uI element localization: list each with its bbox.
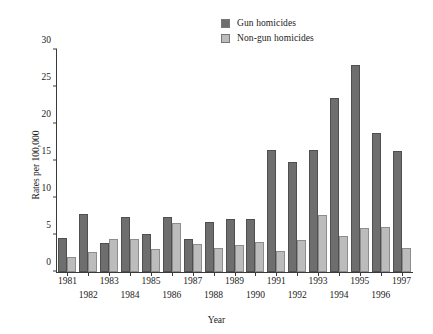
y-axis-title: Rates per 100,000: [31, 131, 41, 200]
bar-1989-non-gun: [235, 245, 244, 272]
bar-1993-non-gun: [318, 215, 327, 272]
bar-1995-non-gun: [360, 228, 369, 272]
x-tick-label-1983: 1983: [100, 276, 119, 286]
bar-group-1988: [205, 222, 223, 272]
bar-1983-non-gun: [109, 239, 118, 272]
bar-group-1997: [393, 151, 411, 272]
bar-group-1982: [79, 214, 97, 272]
bar-1985-gun: [142, 234, 151, 272]
bar-1982-non-gun: [88, 252, 97, 272]
bar-group-1992: [288, 162, 306, 272]
legend-item-non-gun-homicides: Non-gun homicides: [221, 32, 314, 44]
y-tick-label-10: 10: [42, 183, 58, 193]
legend-swatch-non-gun-homicides: [221, 34, 230, 43]
x-tick-mark-1988: [214, 272, 215, 276]
bar-group-1993: [309, 150, 327, 272]
x-tick-label-1989: 1989: [225, 276, 244, 286]
y-tick-label-25: 25: [42, 72, 58, 82]
plot-area: 051015202530: [57, 50, 412, 272]
bar-1987-non-gun: [193, 244, 202, 272]
bar-group-1986: [163, 217, 181, 272]
bar-group-1995: [351, 65, 369, 272]
y-tick-mark-30: [53, 49, 57, 50]
bar-1993-gun: [309, 150, 318, 272]
x-tick-label-1993: 1993: [309, 276, 328, 286]
bar-1994-non-gun: [339, 236, 348, 272]
bar-1986-non-gun: [172, 223, 181, 272]
bar-1986-gun: [163, 217, 172, 272]
x-tick-label-1987: 1987: [183, 276, 202, 286]
legend-label-non-gun-homicides: Non-gun homicides: [237, 33, 314, 43]
bar-1997-non-gun: [402, 248, 411, 272]
bar-1990-non-gun: [255, 242, 264, 272]
x-tick-mark-1986: [172, 272, 173, 276]
legend-label-gun-homicides: Gun homicides: [237, 18, 296, 28]
x-tick-mark-1992: [297, 272, 298, 276]
bar-1991-gun: [267, 150, 276, 272]
bar-group-1984: [121, 217, 139, 272]
chart-legend: Gun homicides Non-gun homicides: [221, 17, 314, 44]
y-tick-mark-20: [53, 123, 57, 124]
y-tick-mark-5: [53, 234, 57, 235]
y-axis-title-wrap: Rates per 100,000: [0, 105, 20, 225]
x-tick-mark-1996: [381, 272, 382, 276]
x-tick-label-1991: 1991: [267, 276, 286, 286]
y-tick-label-15: 15: [42, 146, 58, 156]
x-axis-title: Year: [0, 315, 433, 325]
y-tick-label-0: 0: [46, 257, 57, 267]
bar-1992-gun: [288, 162, 297, 272]
x-tick-label-1996: 1996: [371, 290, 390, 300]
bar-group-1990: [246, 219, 264, 272]
bar-chart: Gun homicides Non-gun homicides Rates pe…: [0, 0, 433, 334]
bar-1984-gun: [121, 217, 130, 272]
x-tick-label-1994: 1994: [329, 290, 348, 300]
bar-1996-gun: [372, 133, 381, 272]
legend-swatch-gun-homicides: [221, 19, 230, 28]
x-tick-label-1995: 1995: [350, 276, 369, 286]
x-tick-label-1981: 1981: [58, 276, 77, 286]
bar-group-1981: [58, 238, 76, 272]
bar-group-1994: [330, 98, 348, 272]
x-tick-mark-1982: [88, 272, 89, 276]
x-tick-label-1997: 1997: [392, 276, 411, 286]
bar-1982-gun: [79, 214, 88, 272]
bar-1981-non-gun: [67, 257, 76, 272]
bar-1987-gun: [184, 239, 193, 272]
bar-1988-non-gun: [214, 248, 223, 272]
bar-1989-gun: [226, 219, 235, 272]
bar-group-1989: [226, 219, 244, 272]
bar-group-1985: [142, 234, 160, 272]
x-tick-label-1990: 1990: [246, 290, 265, 300]
x-tick-mark-1990: [255, 272, 256, 276]
y-tick-mark-25: [53, 86, 57, 87]
bar-1992-non-gun: [297, 240, 306, 272]
y-tick-label-30: 30: [42, 35, 58, 45]
bar-1983-gun: [100, 243, 109, 272]
x-tick-label-1992: 1992: [288, 290, 307, 300]
x-tick-mark-1994: [339, 272, 340, 276]
bar-1991-non-gun: [276, 251, 285, 272]
bar-1988-gun: [205, 222, 214, 272]
y-tick-mark-15: [53, 160, 57, 161]
x-tick-mark-1984: [130, 272, 131, 276]
bar-1995-gun: [351, 65, 360, 272]
bar-1985-non-gun: [151, 249, 160, 272]
x-tick-label-1984: 1984: [121, 290, 140, 300]
y-tick-mark-0: [53, 271, 57, 272]
x-tick-label-1988: 1988: [204, 290, 223, 300]
bar-1996-non-gun: [381, 227, 390, 272]
bar-1990-gun: [246, 219, 255, 272]
bar-1984-non-gun: [130, 239, 139, 272]
x-tick-label-1982: 1982: [79, 290, 98, 300]
y-tick-mark-10: [53, 197, 57, 198]
y-tick-label-5: 5: [46, 220, 57, 230]
bar-1994-gun: [330, 98, 339, 272]
x-tick-label-1986: 1986: [162, 290, 181, 300]
bar-group-1996: [372, 133, 390, 272]
legend-item-gun-homicides: Gun homicides: [221, 17, 314, 29]
y-tick-label-20: 20: [42, 109, 58, 119]
x-tick-label-1985: 1985: [141, 276, 160, 286]
bar-group-1987: [184, 239, 202, 272]
bar-group-1983: [100, 239, 118, 272]
bar-group-1991: [267, 150, 285, 272]
